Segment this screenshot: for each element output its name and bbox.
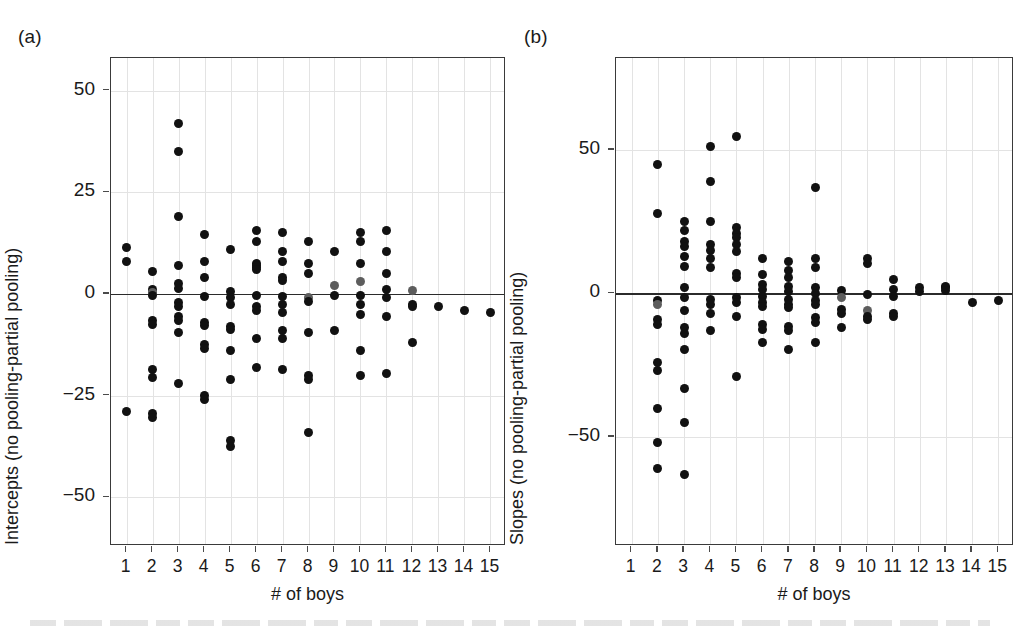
data-point xyxy=(758,254,767,263)
gridline-vertical xyxy=(257,58,258,544)
x-tick-mark xyxy=(970,546,971,552)
x-tick-mark xyxy=(203,546,204,552)
data-point xyxy=(278,257,287,266)
data-point xyxy=(278,228,287,237)
data-point xyxy=(330,247,339,256)
data-point xyxy=(278,308,287,317)
data-point xyxy=(356,237,365,246)
x-tick-mark xyxy=(813,546,814,552)
data-point xyxy=(680,226,689,235)
data-point xyxy=(758,302,767,311)
data-point xyxy=(732,273,741,282)
y-tick-mark xyxy=(103,394,109,395)
x-tick-mark xyxy=(787,546,788,552)
data-point xyxy=(680,345,689,354)
data-point xyxy=(174,316,183,325)
data-point xyxy=(174,119,183,128)
x-tick-mark xyxy=(656,546,657,552)
gridline-vertical xyxy=(632,58,633,544)
data-point xyxy=(174,302,183,311)
data-point xyxy=(148,413,157,422)
data-point xyxy=(200,230,209,239)
data-point xyxy=(148,320,157,329)
gridline-horizontal xyxy=(111,396,504,397)
data-point xyxy=(680,293,689,302)
data-point xyxy=(994,296,1003,305)
x-tick-mark xyxy=(229,546,230,552)
data-point xyxy=(382,293,391,302)
data-point xyxy=(226,375,235,384)
gridline-vertical xyxy=(464,58,465,544)
data-point xyxy=(706,309,715,318)
x-axis-title-2: # of boys xyxy=(615,584,1013,605)
data-point xyxy=(434,302,443,311)
x-tick-label: 15 xyxy=(977,556,1017,577)
panel-label-1: (a) xyxy=(18,26,42,48)
gridline-vertical xyxy=(127,58,128,544)
data-point xyxy=(356,371,365,380)
data-point xyxy=(252,237,261,246)
data-point xyxy=(653,300,662,309)
data-point xyxy=(758,338,767,347)
data-point xyxy=(278,276,287,285)
data-point xyxy=(356,310,365,319)
x-tick-mark xyxy=(918,546,919,552)
data-point xyxy=(653,209,662,218)
plot-area-1 xyxy=(110,57,505,545)
data-point xyxy=(863,290,872,299)
data-point xyxy=(732,132,741,141)
x-tick-mark xyxy=(709,546,710,552)
data-point xyxy=(460,306,469,315)
data-point xyxy=(408,286,417,295)
data-point xyxy=(811,263,820,272)
x-tick-mark xyxy=(125,546,126,552)
data-point xyxy=(680,384,689,393)
data-point xyxy=(252,265,261,274)
data-point xyxy=(226,442,235,451)
data-point xyxy=(811,300,820,309)
x-tick-mark xyxy=(892,546,893,552)
data-point xyxy=(732,312,741,321)
data-point xyxy=(889,292,898,301)
gridline-vertical xyxy=(153,58,154,544)
x-tick-mark xyxy=(359,546,360,552)
data-point xyxy=(680,252,689,261)
data-point xyxy=(653,366,662,375)
y-axis-title-1: Intercepts (no pooling-partial pooling) xyxy=(2,248,23,545)
x-tick-label: 15 xyxy=(469,556,509,577)
y-axis-title-2: Slopes (no pooling-partial pooling) xyxy=(507,272,528,545)
data-point xyxy=(784,257,793,266)
data-point xyxy=(174,147,183,156)
caption-fragment xyxy=(30,620,990,626)
data-point xyxy=(174,212,183,221)
data-point xyxy=(278,334,287,343)
data-point xyxy=(889,275,898,284)
y-tick-label: −50 xyxy=(530,424,600,446)
x-tick-mark xyxy=(997,546,998,552)
data-point xyxy=(148,267,157,276)
data-point xyxy=(837,309,846,318)
data-point xyxy=(200,257,209,266)
data-point xyxy=(968,298,977,307)
x-tick-mark xyxy=(630,546,631,552)
gridline-horizontal xyxy=(111,192,504,193)
data-point xyxy=(252,334,261,343)
data-point xyxy=(758,325,767,334)
gridline-vertical xyxy=(438,58,439,544)
data-point xyxy=(356,259,365,268)
data-point xyxy=(486,308,495,317)
data-point xyxy=(304,428,313,437)
gridline-horizontal xyxy=(111,91,504,92)
x-tick-mark xyxy=(385,546,386,552)
data-point xyxy=(680,329,689,338)
gridline-horizontal xyxy=(111,497,504,498)
data-point xyxy=(356,346,365,355)
y-tick-mark xyxy=(103,496,109,497)
x-tick-mark xyxy=(866,546,867,552)
x-tick-mark xyxy=(255,546,256,552)
data-point xyxy=(653,464,662,473)
y-tick-label: −25 xyxy=(25,383,95,405)
data-point xyxy=(758,270,767,279)
data-point xyxy=(706,177,715,186)
data-point xyxy=(784,326,793,335)
